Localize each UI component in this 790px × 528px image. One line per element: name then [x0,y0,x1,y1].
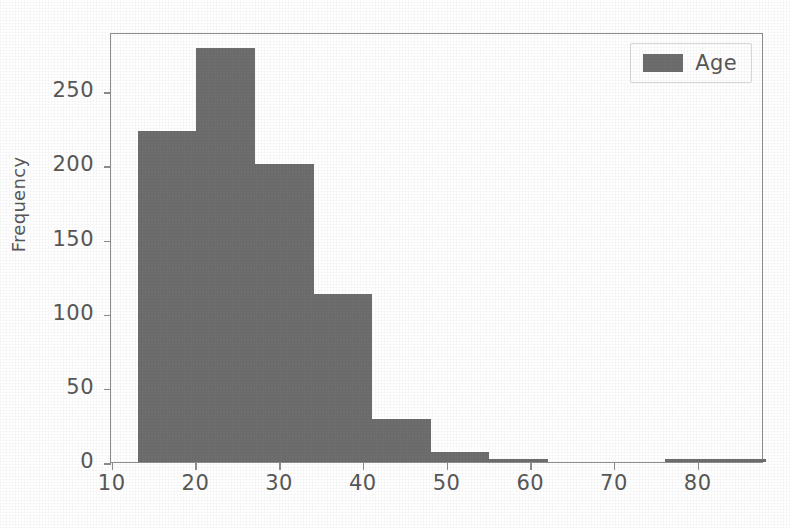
histogram-bar [314,294,373,462]
x-axis-tick-mark [363,463,365,470]
x-axis-tick-label: 60 [500,471,560,495]
histogram-screenshot: Frequency 050100150200250 10203040506070… [0,0,790,528]
x-axis-tick-label: 40 [333,471,393,495]
chart-legend: Age [630,43,752,83]
histogram-bar [665,459,724,462]
x-axis-tick-mark [698,463,700,470]
y-axis-tick-label: 50 [0,375,94,399]
histogram-bar [372,419,431,462]
histogram-bar [724,459,766,462]
x-axis-tick-label: 30 [249,471,309,495]
y-axis-tick-label: 250 [0,78,94,102]
histogram-bar [255,164,314,462]
x-axis-tick-mark [447,463,449,470]
x-axis-tick-mark [614,463,616,470]
y-axis-tick-label: 100 [0,301,94,325]
x-axis-tick-mark [112,463,114,470]
x-axis-tick-mark [530,463,532,470]
y-axis-tick-label: 200 [0,152,94,176]
x-axis-tick-label: 80 [668,471,728,495]
histogram-bar [489,459,548,462]
plot-area: Age [110,33,763,463]
legend-label-age: Age [695,51,737,75]
legend-swatch-age [643,54,683,72]
x-axis-tick-label: 20 [165,471,225,495]
x-axis-tick-label: 10 [82,471,142,495]
y-axis-tick-mark [104,463,111,465]
y-axis-tick-label: 150 [0,227,94,251]
y-axis-title: Frequency [8,125,29,285]
x-axis-tick-mark [195,463,197,470]
x-axis-tick-mark [279,463,281,470]
histogram-bar [196,48,255,462]
x-axis-tick-label: 50 [417,471,477,495]
histogram-bar [138,131,197,462]
histogram-bar [431,452,490,462]
y-axis-tick-label: 0 [0,449,94,473]
x-axis-tick-label: 70 [584,471,644,495]
